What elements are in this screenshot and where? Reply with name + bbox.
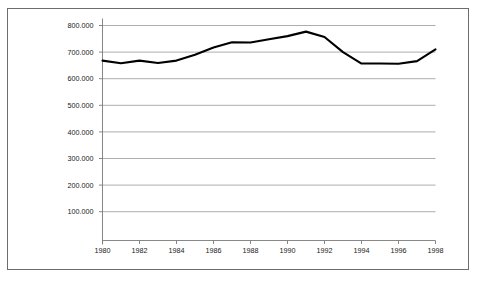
x-axis-tick-labels: 1980198219841986198819901992199419961998 bbox=[95, 246, 444, 255]
y-tick-label: 200.000 bbox=[68, 181, 94, 190]
x-tick-label: 1982 bbox=[132, 246, 148, 255]
y-tick-label: 800.000 bbox=[68, 21, 94, 30]
gridlines bbox=[103, 26, 436, 212]
x-tick-label: 1998 bbox=[428, 246, 444, 255]
data-series bbox=[103, 32, 436, 64]
x-tick-label: 1984 bbox=[169, 246, 185, 255]
x-tick-label: 1992 bbox=[317, 246, 333, 255]
y-tick-label: 600.000 bbox=[68, 74, 94, 83]
y-tick-label: 500.000 bbox=[68, 101, 94, 110]
chart-figure: 800.000700.000600.000500.000400.000300.0… bbox=[0, 0, 485, 281]
y-tick-label: 300.000 bbox=[68, 154, 94, 163]
line-chart: 800.000700.000600.000500.000400.000300.0… bbox=[0, 0, 485, 281]
x-tick-label: 1990 bbox=[280, 246, 296, 255]
y-tick-label: 400.000 bbox=[68, 128, 94, 137]
x-tick-label: 1988 bbox=[243, 246, 259, 255]
x-tick-label: 1996 bbox=[391, 246, 407, 255]
x-tick-label: 1994 bbox=[354, 246, 370, 255]
tick-marks bbox=[99, 26, 436, 245]
y-axis-tick-labels: 800.000700.000600.000500.000400.000300.0… bbox=[68, 21, 94, 216]
x-tick-label: 1986 bbox=[206, 246, 222, 255]
data-series-line-1 bbox=[103, 32, 436, 64]
x-tick-label: 1980 bbox=[95, 246, 111, 255]
y-tick-label: 700.000 bbox=[68, 48, 94, 57]
y-tick-label: 100.000 bbox=[68, 207, 94, 216]
